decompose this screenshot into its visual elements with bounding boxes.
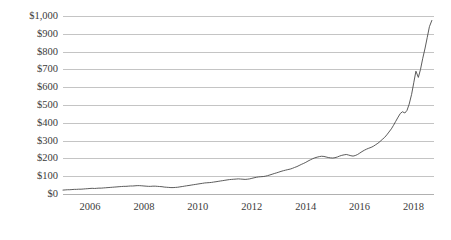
x-axis-tick-label: 2012	[241, 201, 262, 212]
x-axis-labels: 2006 2008 2010 2012 2014 2016 2018	[0, 0, 451, 240]
x-axis-tick-label: 2010	[187, 201, 208, 212]
line-chart: $1,000 $900 $800 $700 $600 $500 $400 $30…	[0, 0, 451, 240]
x-axis-tick-label: 2016	[349, 201, 370, 212]
x-axis-tick-label: 2018	[403, 201, 424, 212]
x-axis-tick-label: 2006	[80, 201, 101, 212]
x-axis-tick-label: 2008	[133, 201, 154, 212]
x-axis-tick-label: 2014	[295, 201, 316, 212]
